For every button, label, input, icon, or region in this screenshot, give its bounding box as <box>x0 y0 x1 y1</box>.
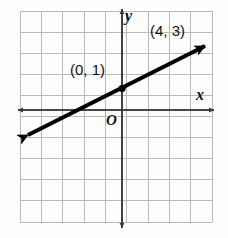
x-axis-label: x <box>196 86 204 104</box>
point-marker-0-1 <box>118 85 125 92</box>
point-label-4-3: (4, 3) <box>150 22 185 39</box>
y-axis-label: y <box>125 7 132 25</box>
point-label-0-1: (0, 1) <box>70 61 105 78</box>
coordinate-plane-figure: (4, 3) (0, 1) y x O <box>0 0 228 238</box>
origin-label: O <box>106 112 117 129</box>
